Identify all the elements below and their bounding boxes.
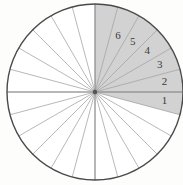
- center-point: [93, 90, 97, 94]
- sector-diagram-figure: 123456: [0, 0, 183, 185]
- sector-label-3: 3: [157, 58, 163, 70]
- sector-label-5: 5: [130, 35, 136, 47]
- sector-label-6: 6: [115, 29, 121, 41]
- sector-label-4: 4: [145, 44, 151, 56]
- sector-label-1: 1: [162, 94, 168, 106]
- sector-label-2: 2: [162, 75, 168, 87]
- circle-sector-diagram: 123456: [0, 0, 183, 185]
- center-dot-icon: [93, 90, 97, 94]
